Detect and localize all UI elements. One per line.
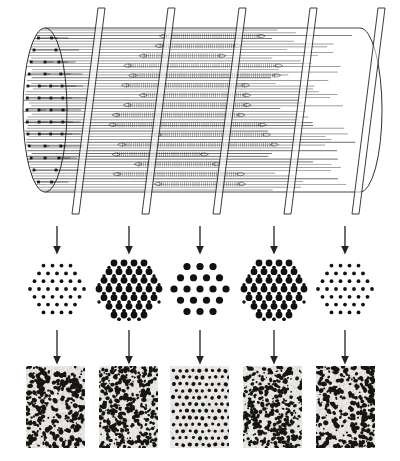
micrograph-row — [0, 364, 400, 456]
thick-filament-only-lattice — [161, 250, 239, 328]
section-plane-1 — [72, 8, 105, 214]
section-plane-5 — [352, 8, 385, 214]
sparse-thin-filament-lattice — [306, 250, 384, 328]
section-plane-3 — [213, 8, 246, 214]
sarcomere-cylinder — [0, 0, 400, 222]
dense-speckle-micrograph — [243, 366, 302, 448]
disordered-speckle-micrograph — [26, 366, 85, 448]
sarcomere-cylinder-panel — [0, 0, 400, 222]
sparse-thin-filament-lattice — [18, 250, 96, 328]
lattice-pattern-row — [0, 250, 400, 328]
section-plane-2 — [142, 8, 175, 214]
ordered-lattice-micrograph — [170, 366, 229, 448]
section-plane-4 — [284, 8, 317, 214]
figure-root — [0, 0, 400, 461]
dense-speckle-micrograph — [99, 366, 158, 448]
dense-overlap-lattice — [235, 250, 313, 328]
dense-overlap-lattice — [90, 250, 168, 328]
disordered-speckle-micrograph — [316, 366, 375, 448]
section-arrows-bottom — [0, 326, 400, 366]
